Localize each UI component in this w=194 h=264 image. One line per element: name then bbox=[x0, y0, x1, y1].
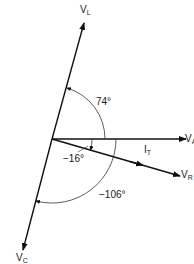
current-it-arrow bbox=[130, 162, 143, 166]
label-vl: VL bbox=[80, 5, 91, 16]
label-vc: VC bbox=[16, 253, 28, 264]
angle-arc-16 bbox=[91, 139, 93, 150]
phasor-vl bbox=[52, 23, 84, 139]
label-angle-16: −16° bbox=[63, 154, 84, 164]
phasor-diagram-canvas bbox=[0, 0, 194, 264]
label-it: IT bbox=[144, 145, 151, 156]
label-va: VA bbox=[185, 134, 194, 145]
label-angle-106: −106° bbox=[99, 190, 126, 200]
phasor-vc bbox=[23, 139, 52, 250]
label-angle-74: 74° bbox=[96, 97, 111, 107]
label-vr: VR bbox=[181, 170, 193, 181]
